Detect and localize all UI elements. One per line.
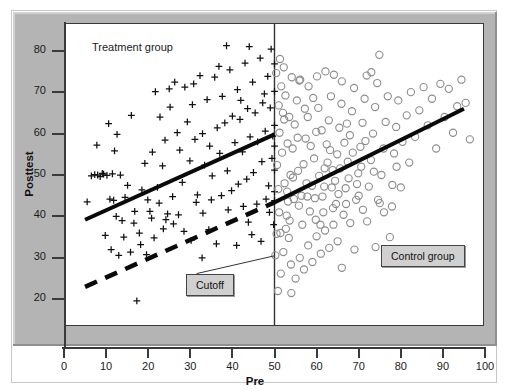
y-tick-label: 60 xyxy=(18,126,46,138)
plus-marker xyxy=(110,197,117,204)
circle-marker xyxy=(374,79,381,86)
circle-marker xyxy=(305,83,312,90)
circle-marker xyxy=(359,119,366,126)
plus-marker xyxy=(164,211,171,218)
y-tick xyxy=(52,174,64,176)
circle-marker xyxy=(395,97,402,104)
circle-marker xyxy=(397,184,404,191)
circle-marker xyxy=(380,209,387,216)
plus-marker xyxy=(261,90,268,97)
circle-marker xyxy=(407,89,414,96)
y-tick-label: 80 xyxy=(18,43,46,55)
circle-marker xyxy=(307,142,314,149)
circle-marker xyxy=(349,149,356,156)
plus-marker xyxy=(271,88,278,95)
circle-marker xyxy=(294,167,301,174)
plus-marker xyxy=(242,60,249,67)
circle-marker xyxy=(334,238,341,245)
circle-marker xyxy=(278,83,285,90)
circle-marker xyxy=(345,175,352,182)
circle-marker xyxy=(372,243,379,250)
circle-marker xyxy=(327,93,334,100)
circle-marker xyxy=(317,250,324,257)
circle-marker xyxy=(324,159,331,166)
plus-marker xyxy=(175,211,182,218)
plus-marker xyxy=(149,149,156,156)
circle-marker xyxy=(335,190,342,197)
circle-marker xyxy=(364,218,371,225)
circle-marker xyxy=(362,137,369,144)
y-tick xyxy=(52,91,64,93)
plus-marker xyxy=(219,93,226,100)
plus-marker xyxy=(211,74,218,81)
plus-marker xyxy=(170,220,177,227)
circle-marker xyxy=(445,85,452,92)
plus-marker xyxy=(245,219,252,226)
x-tick xyxy=(105,349,107,358)
x-tick xyxy=(231,349,233,358)
plus-marker xyxy=(249,79,256,86)
plus-marker xyxy=(257,55,264,62)
circle-marker xyxy=(346,132,353,139)
plus-marker xyxy=(169,193,176,200)
circle-marker xyxy=(350,84,357,91)
plus-marker xyxy=(157,114,164,121)
circle-marker xyxy=(342,200,349,207)
circle-marker xyxy=(321,227,328,234)
plus-marker xyxy=(270,221,277,228)
plus-marker xyxy=(262,128,269,135)
x-tick xyxy=(274,349,276,358)
plus-marker xyxy=(124,182,131,189)
x-tick xyxy=(442,349,444,358)
panel-highlight-top xyxy=(13,12,497,14)
circle-marker xyxy=(288,289,295,296)
plus-marker xyxy=(216,63,223,70)
plus-marker xyxy=(229,113,236,120)
circle-marker xyxy=(361,95,368,102)
plus-marker xyxy=(248,231,255,238)
y-tick xyxy=(52,215,64,217)
plus-marker xyxy=(223,42,230,49)
circle-marker xyxy=(369,130,376,137)
circle-marker xyxy=(351,246,358,253)
plus-marker xyxy=(105,120,112,127)
plus-marker xyxy=(184,119,191,126)
circle-marker xyxy=(326,147,333,154)
y-tick-label: 20 xyxy=(18,291,46,303)
x-tick xyxy=(316,349,318,358)
plus-marker xyxy=(221,119,228,126)
circle-marker xyxy=(449,129,456,136)
circle-marker xyxy=(273,69,280,76)
circle-marker xyxy=(280,64,287,71)
circle-marker xyxy=(382,118,389,125)
scatter-canvas xyxy=(66,24,483,325)
plus-marker xyxy=(181,84,188,91)
circle-marker xyxy=(278,149,285,156)
circle-marker xyxy=(310,155,317,162)
plus-marker xyxy=(137,241,144,248)
circle-marker xyxy=(403,112,410,119)
plus-marker xyxy=(199,254,206,261)
plus-marker xyxy=(119,217,126,224)
cutoff-callout: Cutoff xyxy=(186,274,234,296)
x-tick-label: 100 xyxy=(470,360,500,372)
plus-marker xyxy=(176,147,183,154)
y-tick xyxy=(52,133,64,135)
x-tick-label: 0 xyxy=(49,360,79,372)
circle-marker xyxy=(292,275,299,282)
circle-marker xyxy=(290,195,297,202)
plus-marker xyxy=(88,172,95,179)
y-tick-label: 30 xyxy=(18,250,46,262)
plus-marker xyxy=(128,112,135,119)
circle-marker xyxy=(370,168,377,175)
circle-marker xyxy=(358,163,365,170)
x-tick xyxy=(400,349,402,358)
circle-marker xyxy=(315,104,322,111)
circle-marker xyxy=(299,221,306,228)
plus-marker xyxy=(259,100,266,107)
plus-marker xyxy=(263,196,270,203)
y-axis-title: Posttest xyxy=(23,139,35,209)
plus-marker xyxy=(194,191,201,198)
plus-marker xyxy=(127,249,134,256)
plus-marker xyxy=(209,172,216,179)
